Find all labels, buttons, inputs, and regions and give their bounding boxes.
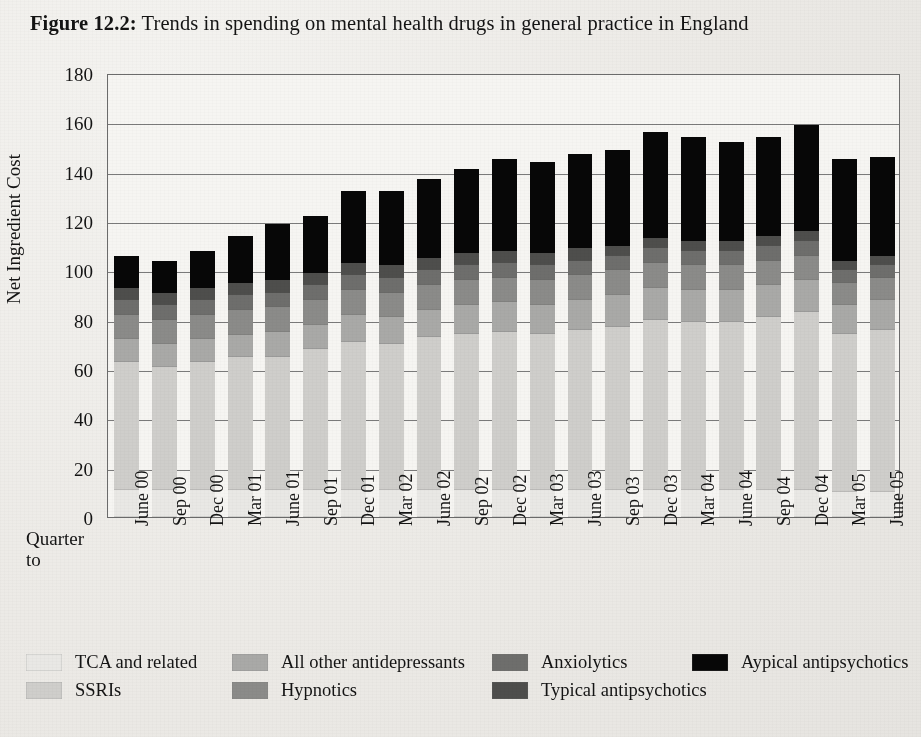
legend-swatch-hypnotics [232,682,268,699]
x-tick-june-02: June 02 [435,471,453,527]
x-tick-june-01: June 01 [284,471,302,527]
legend-label-anxiolytics: Anxiolytics [541,652,627,673]
legend-item-atypical-antipsychotics[interactable]: Aypical antipsychotics [692,652,908,673]
legend-swatch-anxiolytics [492,654,528,671]
legend-label-tca-and-related: TCA and related [75,652,197,673]
legend-item-tca-and-related[interactable]: TCA and related [26,652,197,673]
legend-row: TCA and relatedAll other antidepressants… [26,648,906,676]
x-tick-june-05: June 05 [888,471,906,527]
x-tick-dec-02: Dec 02 [511,475,529,526]
legend-label-all-other-antidepressants: All other antidepressants [281,652,465,673]
legend-swatch-atypical-antipsychotics [692,654,728,671]
x-axis-title: Quarter to [26,528,84,571]
x-axis-title-line2: to [26,549,84,570]
legend-label-typical-antipsychotics: Typical antipsychotics [541,680,707,701]
figure-page: Figure 12.2: Trends in spending on menta… [0,0,921,737]
x-axis-title-line1: Quarter [26,528,84,549]
x-tick-dec-04: Dec 04 [813,475,831,526]
x-tick-mar-01: Mar 01 [246,474,264,527]
x-tick-june-00: June 00 [133,471,151,527]
x-axis-tick-labels: June 00Sep 00Dec 00Mar 01June 01Sep 01De… [0,0,921,737]
x-tick-sep-04: Sep 04 [775,477,793,527]
x-tick-dec-00: Dec 00 [208,475,226,526]
legend-item-ssris[interactable]: SSRIs [26,680,121,701]
legend-label-atypical-antipsychotics: Aypical antipsychotics [741,652,908,673]
x-tick-sep-03: Sep 03 [624,477,642,527]
x-tick-june-04: June 04 [737,471,755,527]
legend: TCA and relatedAll other antidepressants… [26,648,906,704]
x-tick-mar-03: Mar 03 [548,474,566,527]
legend-swatch-all-other-antidepressants [232,654,268,671]
x-tick-mar-02: Mar 02 [397,474,415,527]
legend-swatch-typical-antipsychotics [492,682,528,699]
legend-item-typical-antipsychotics[interactable]: Typical antipsychotics [492,680,707,701]
legend-row: SSRIsHypnoticsTypical antipsychotics [26,676,906,704]
legend-item-all-other-antidepressants[interactable]: All other antidepressants [232,652,465,673]
x-tick-mar-04: Mar 04 [699,474,717,527]
legend-swatch-ssris [26,682,62,699]
legend-label-ssris: SSRIs [75,680,121,701]
x-tick-sep-00: Sep 00 [171,477,189,527]
legend-item-hypnotics[interactable]: Hypnotics [232,680,357,701]
x-tick-sep-02: Sep 02 [473,477,491,527]
legend-swatch-tca-and-related [26,654,62,671]
x-tick-mar-05: Mar 05 [850,474,868,527]
legend-label-hypnotics: Hypnotics [281,680,357,701]
x-tick-dec-01: Dec 01 [359,475,377,526]
x-tick-sep-01: Sep 01 [322,477,340,527]
x-tick-dec-03: Dec 03 [662,475,680,526]
x-tick-june-03: June 03 [586,471,604,527]
legend-item-anxiolytics[interactable]: Anxiolytics [492,652,627,673]
